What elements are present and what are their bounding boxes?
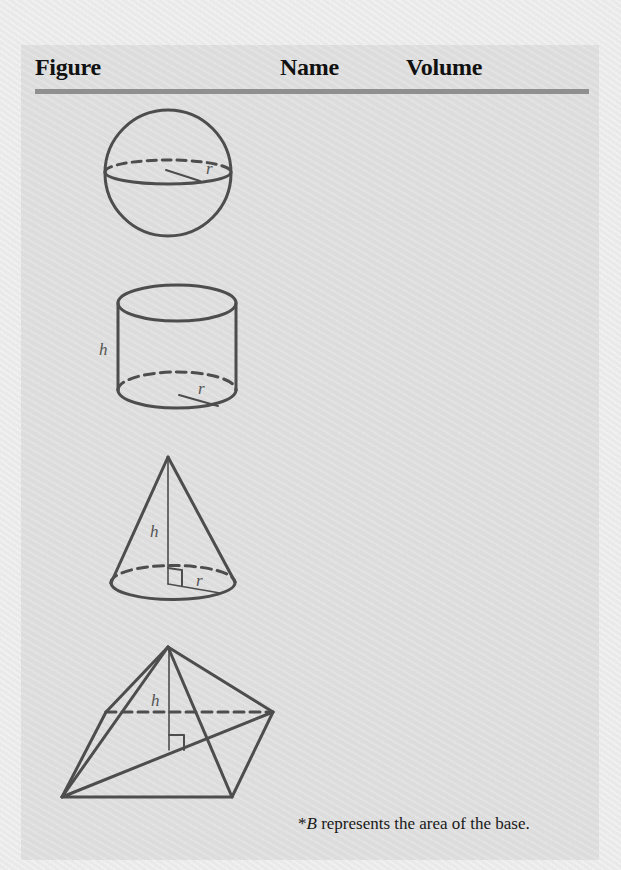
pyramid-height-label: h xyxy=(151,691,160,710)
footnote-variable: B xyxy=(307,814,317,833)
footnote-asterisk: * xyxy=(298,814,307,833)
cylinder-top-ellipse xyxy=(118,285,236,321)
cone-radius-line xyxy=(168,584,220,593)
pyramid-edge-back-right xyxy=(168,647,273,712)
cone-figure: r h xyxy=(111,457,235,600)
pyramid-figure: h xyxy=(62,647,273,797)
cylinder-radius-label: r xyxy=(198,379,205,398)
cylinder-height-label: h xyxy=(99,340,108,359)
cone-height-label: h xyxy=(150,522,159,541)
sphere-radius-line xyxy=(166,170,200,181)
cone-right-side xyxy=(168,457,235,582)
cone-left-side xyxy=(111,457,168,583)
figures-layer: r r h r h h xyxy=(0,0,621,870)
footnote: *B represents the area of the base. xyxy=(298,814,530,834)
footnote-text: represents the area of the base. xyxy=(317,814,530,833)
sphere-radius-label: r xyxy=(206,159,213,178)
pyramid-left-base-edge xyxy=(62,712,106,797)
pyramid-edge-front-right xyxy=(168,647,232,797)
sphere-figure: r xyxy=(105,110,231,236)
cylinder-bottom-back-dashed xyxy=(118,372,236,390)
cone-right-angle-marker xyxy=(168,568,182,586)
cylinder-figure: r h xyxy=(99,285,236,408)
cone-radius-label: r xyxy=(196,571,203,590)
